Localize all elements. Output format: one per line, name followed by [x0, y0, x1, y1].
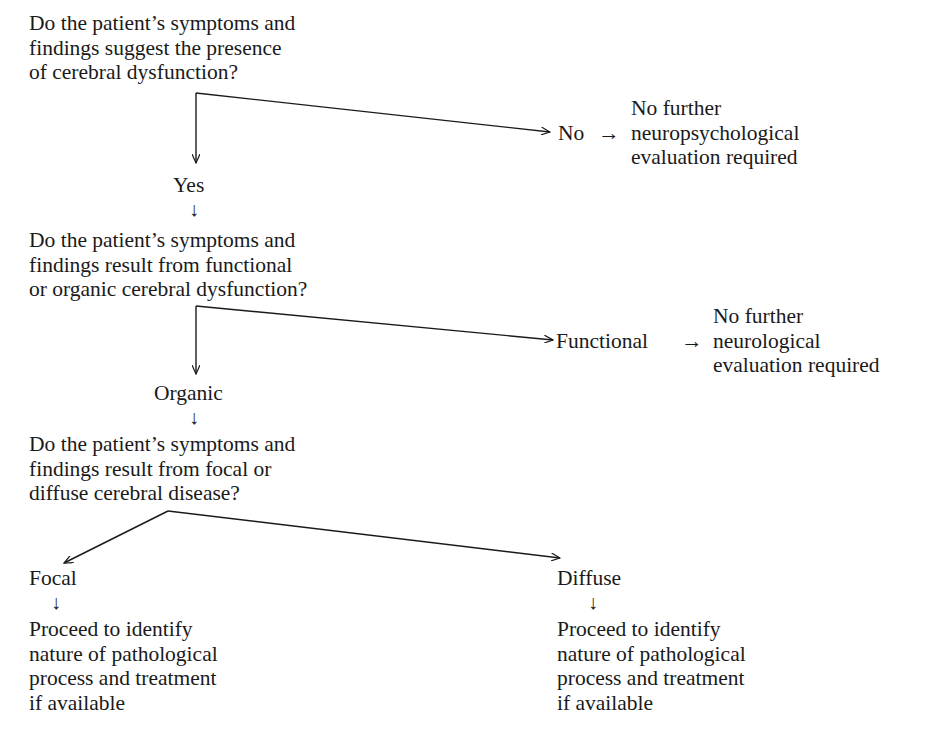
- focal-outcome: Proceed to identify nature of pathologic…: [29, 617, 218, 715]
- functional-outcome-line-3: evaluation required: [713, 353, 880, 378]
- question-3-line-3: diffuse cerebral disease?: [29, 481, 295, 506]
- functional-outcome-line-2: neurological: [713, 329, 880, 354]
- focal-outcome-line-3: process and treatment: [29, 666, 218, 691]
- down-arrow-icon: ↓: [189, 199, 199, 219]
- question-1: Do the patient’s symptoms and findings s…: [29, 11, 295, 85]
- organic-label: Organic: [154, 381, 223, 405]
- no-outcome-line-2: neuropsychological: [631, 121, 799, 146]
- no-arrow-icon: →: [598, 121, 620, 145]
- down-arrow-icon: ↓: [51, 592, 61, 612]
- question-2-line-2: findings result from functional: [29, 253, 307, 278]
- functional-label: Functional: [556, 329, 648, 353]
- yes-label: Yes: [173, 173, 204, 197]
- q1-to-no-connector: [196, 93, 550, 132]
- diffuse-outcome-line-2: nature of pathological: [557, 642, 746, 667]
- diffuse-outcome-line-1: Proceed to identify: [557, 617, 746, 642]
- question-3-line-1: Do the patient’s symptoms and: [29, 432, 295, 457]
- no-outcome: No further neuropsychological evaluation…: [631, 96, 799, 170]
- no-outcome-line-3: evaluation required: [631, 145, 799, 170]
- functional-arrow-icon: →: [681, 329, 703, 353]
- focal-label: Focal: [29, 566, 77, 590]
- q2-to-functional-connector: [196, 306, 553, 340]
- question-2-line-3: or organic cerebral dysfunction?: [29, 277, 307, 302]
- down-arrow-icon: ↓: [189, 407, 199, 427]
- diffuse-outcome: Proceed to identify nature of pathologic…: [557, 617, 746, 715]
- question-1-line-2: findings suggest the presence: [29, 36, 295, 61]
- question-2-line-1: Do the patient’s symptoms and: [29, 228, 307, 253]
- focal-outcome-line-4: if available: [29, 691, 218, 716]
- functional-outcome: No further neurological evaluation requi…: [713, 304, 880, 378]
- diffuse-outcome-line-3: process and treatment: [557, 666, 746, 691]
- question-2: Do the patient’s symptoms and findings r…: [29, 228, 307, 302]
- no-label: No: [558, 121, 584, 145]
- q3-to-diffuse-connector: [168, 511, 560, 558]
- q3-to-focal-connector: [64, 511, 168, 563]
- question-1-line-3: of cerebral dysfunction?: [29, 60, 295, 85]
- no-outcome-line-1: No further: [631, 96, 799, 121]
- focal-outcome-line-2: nature of pathological: [29, 642, 218, 667]
- down-arrow-icon: ↓: [588, 592, 598, 612]
- question-3: Do the patient’s symptoms and findings r…: [29, 432, 295, 506]
- focal-outcome-line-1: Proceed to identify: [29, 617, 218, 642]
- question-3-line-2: findings result from focal or: [29, 457, 295, 482]
- question-1-line-1: Do the patient’s symptoms and: [29, 11, 295, 36]
- diffuse-outcome-line-4: if available: [557, 691, 746, 716]
- functional-outcome-line-1: No further: [713, 304, 880, 329]
- diffuse-label: Diffuse: [557, 566, 621, 590]
